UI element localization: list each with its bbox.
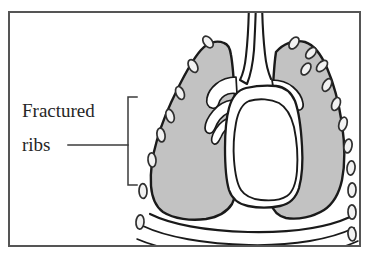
figure-container: Fractured ribs <box>0 0 369 257</box>
chest-illustration: Fractured ribs <box>0 0 369 257</box>
rib-fragment <box>348 205 356 220</box>
fractured-ribs-label-line1: Fractured <box>22 100 95 121</box>
rib-fragment <box>348 183 356 198</box>
rib-fragment <box>346 160 355 175</box>
fractured-ribs-label-line2: ribs <box>22 134 51 155</box>
rib-fragment <box>136 215 145 230</box>
rib-fragment <box>139 183 148 198</box>
heart-silhouette <box>225 86 302 208</box>
rib-fragment <box>147 152 156 167</box>
rib-fragment <box>347 227 356 242</box>
